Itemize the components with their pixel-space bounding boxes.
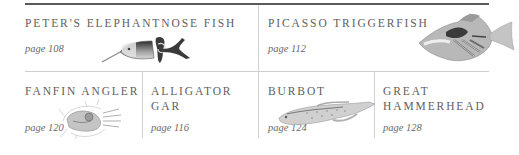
page-reference[interactable]: page 112 [268,43,306,54]
entry-picasso-triggerfish[interactable]: PICASSO TRIGGERFISH page 112 [259,5,489,71]
triggerfish-illustration [414,10,519,65]
entry-alligator-gar[interactable]: ALLIGATOR GAR page 116 [143,72,258,138]
entry-title-line2: GAR [151,99,181,114]
entry-title: BURBOT [268,84,326,99]
entry-title: FANFIN ANGLER [25,84,139,99]
species-index-grid: PETER'S ELEPHANTNOSE FISH page 108 PICAS… [25,3,489,138]
entry-title-line1: GREAT [383,84,430,99]
entry-burbot[interactable]: BURBOT page 124 [259,72,374,138]
entry-title-line2: HAMMERHEAD [383,99,486,114]
burbot-illustration [277,98,377,130]
angler-illustration [57,99,127,139]
entry-title-line1: ALLIGATOR [151,84,232,99]
page-reference[interactable]: page 116 [151,122,189,133]
entry-fanfin-angler[interactable]: FANFIN ANGLER page 120 [25,72,142,138]
elephantnose-fish-illustration [100,32,195,66]
entry-great-hammerhead[interactable]: GREAT HAMMERHEAD page 128 [375,72,489,138]
page-reference[interactable]: page 128 [383,122,422,133]
page-reference[interactable]: page 108 [25,43,64,54]
entry-title: PICASSO TRIGGERFISH [268,16,429,31]
entry-title: PETER'S ELEPHANTNOSE FISH [25,16,236,31]
entry-elephantnose-fish[interactable]: PETER'S ELEPHANTNOSE FISH page 108 [25,5,258,71]
